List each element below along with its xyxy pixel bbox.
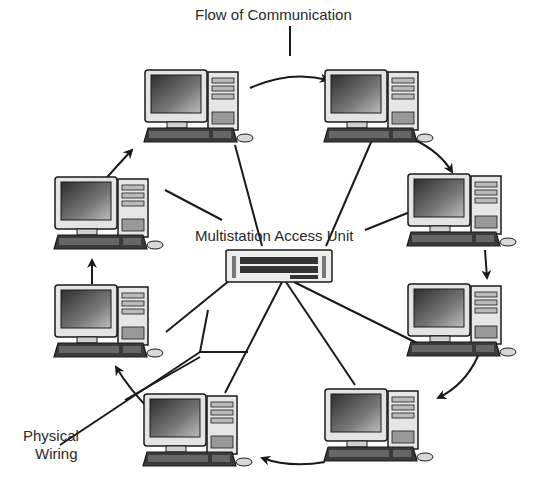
mau-label: Multistation Access Unit (195, 227, 353, 244)
mau-hub (226, 250, 332, 282)
flow-of-communication-label: Flow of Communication (195, 6, 352, 23)
diagram-canvas (0, 0, 542, 493)
token-ring-diagram: Flow of Communication Multistation Acces… (0, 0, 542, 493)
physical-wiring-label-line2: Wiring (35, 445, 78, 462)
physical-wiring-label-line1: Physical (23, 427, 79, 444)
